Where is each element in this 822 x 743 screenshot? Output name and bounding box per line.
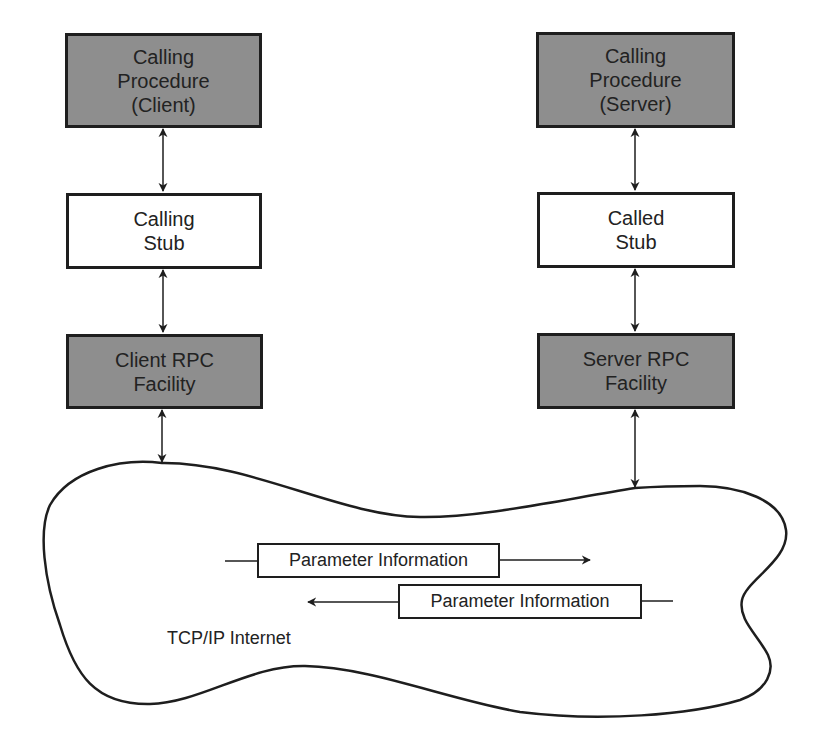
box-label-line: Facility bbox=[133, 372, 195, 396]
calling-stub-box: Calling Stub bbox=[66, 193, 262, 269]
message-1-parameter-information-box: Parameter Information bbox=[257, 543, 500, 578]
network-label: TCP/IP Internet bbox=[167, 628, 291, 649]
message-1-label: Parameter Information bbox=[289, 550, 468, 571]
server-rpc-facility-box: Server RPC Facility bbox=[537, 333, 735, 409]
box-label-line: Facility bbox=[605, 371, 667, 395]
box-label-line: Procedure bbox=[117, 69, 209, 93]
called-stub-box: Called Stub bbox=[537, 192, 735, 268]
box-label-line: Calling bbox=[605, 44, 666, 68]
box-label-line: Client RPC bbox=[115, 348, 214, 372]
box-label-line: Calling bbox=[133, 45, 194, 69]
server-calling-procedure-box: Calling Procedure (Server) bbox=[536, 32, 735, 128]
box-label-line: Calling bbox=[133, 207, 194, 231]
client-rpc-facility-box: Client RPC Facility bbox=[66, 334, 263, 409]
box-label-line: Procedure bbox=[589, 68, 681, 92]
box-label-line: Stub bbox=[143, 231, 184, 255]
message-2-label: Parameter Information bbox=[430, 591, 609, 612]
box-label-line: Called bbox=[608, 206, 665, 230]
box-label-line: (Server) bbox=[599, 92, 671, 116]
box-label-line: Server RPC bbox=[583, 347, 690, 371]
box-label-line: Stub bbox=[615, 230, 656, 254]
client-calling-procedure-box: Calling Procedure (Client) bbox=[65, 33, 262, 128]
box-label-line: (Client) bbox=[131, 93, 195, 117]
message-2-parameter-information-box: Parameter Information bbox=[398, 584, 642, 619]
